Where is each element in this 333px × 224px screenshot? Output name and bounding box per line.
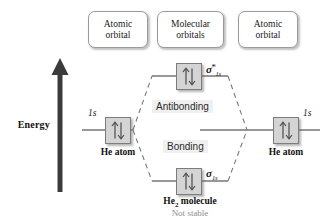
caption-box-right-atomic-orbital: Atomic orbital — [238, 11, 298, 48]
caption-left-line2: orbital — [106, 30, 131, 41]
orbital-box-left-atom[interactable] — [105, 117, 131, 144]
sigma-subscript-antibonding: 1s — [215, 70, 221, 77]
molecule-name-suffix: molecule — [178, 196, 216, 206]
label-antibonding-region: Antibonding — [152, 100, 213, 113]
caption-box-left-atomic-orbital: Atomic orbital — [88, 11, 148, 48]
label-sigma-1s: σ1s — [206, 167, 218, 181]
label-1s-right: 1s — [303, 108, 311, 118]
caption-he-atom-right: He atom — [255, 147, 317, 157]
label-1s-left: 1s — [88, 108, 96, 118]
label-sigma-star-1s: σ*1s — [206, 62, 221, 77]
energy-axis-label: Energy — [2, 119, 50, 130]
caption-mid-line1: Molecular — [171, 19, 210, 30]
sigma-subscript-bonding: 1s — [212, 174, 218, 181]
energy-up-arrow-icon — [51, 58, 69, 192]
caption-right-line1: Atomic — [254, 19, 283, 30]
orbital-box-right-atom[interactable] — [273, 117, 299, 144]
caption-right-line2: orbital — [256, 30, 281, 41]
caption-he2-molecule: He2 molecule — [140, 196, 240, 209]
orbital-box-antibonding[interactable] — [176, 63, 202, 90]
label-bonding-region: Bonding — [163, 140, 208, 153]
mo-diagram-figure: Atomic orbital Molecular orbitals Atomic… — [0, 0, 333, 224]
caption-box-molecular-orbitals: Molecular orbitals — [157, 11, 224, 48]
caption-mid-line2: orbitals — [176, 30, 205, 41]
orbital-box-bonding[interactable] — [176, 168, 202, 195]
molecule-name-prefix: He — [163, 196, 175, 206]
caption-not-stable: Not stable — [140, 208, 240, 218]
caption-left-line1: Atomic — [104, 19, 133, 30]
caption-he-atom-left: He atom — [87, 147, 149, 157]
